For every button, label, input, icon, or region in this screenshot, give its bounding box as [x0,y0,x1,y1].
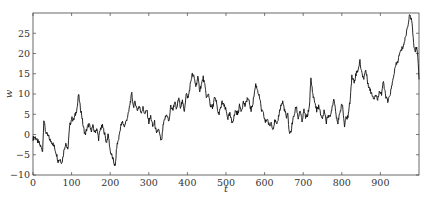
x-tick-label: 300 [140,177,158,188]
y-axis-label: w [3,89,14,98]
x-tick-label: 0 [30,177,36,188]
y-tick-label: 15 [18,68,30,79]
y-tick-label: 0 [24,129,30,140]
y-tick-label: 20 [18,48,30,59]
x-tick-label: 600 [256,177,274,188]
plot-frame [33,13,419,175]
y-tick-label: −5 [16,149,30,160]
data-series-line [33,15,419,166]
x-tick-label: 200 [101,177,119,188]
y-tick-label: 10 [18,88,30,99]
line-chart: 0100200300400500600700800900 −10−5051015… [0,0,426,210]
y-tick-label: 25 [18,28,30,39]
x-tick-label: 900 [371,177,389,188]
plot-area: 0100200300400500600700800900 −10−5051015… [10,13,419,188]
x-tick-label: 800 [333,177,351,188]
y-axis-ticks: −10−50510152025 [10,28,419,181]
y-tick-label: 5 [24,109,30,120]
x-tick-label: 100 [63,177,81,188]
y-tick-label: −10 [10,169,30,180]
x-tick-label: 400 [178,177,196,188]
x-tick-label: 700 [294,177,312,188]
